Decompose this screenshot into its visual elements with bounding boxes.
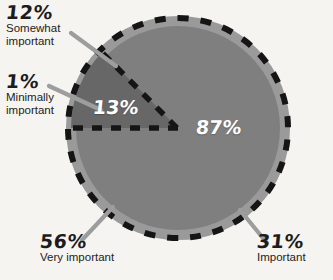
callout-important: 31% Important [257, 232, 306, 264]
callout-important-percent: 31% [256, 232, 307, 251]
callout-somewhat-percent: 12% [5, 3, 61, 22]
callout-somewhat-important: 12% Somewhat important [6, 3, 60, 48]
inner-label-13-percent: 13% [92, 98, 139, 117]
callout-somewhat-label-line2: important [6, 35, 60, 48]
callout-very-percent: 56% [39, 232, 115, 251]
callout-somewhat-label-line1: Somewhat [6, 22, 60, 35]
callout-important-label-line1: Important [257, 251, 306, 264]
callout-very-label-line1: Very important [40, 251, 114, 264]
pie-chart-figure: 13% 87% 12% Somewhat important 1% Minima… [0, 0, 333, 280]
callout-very-important: 56% Very important [40, 232, 114, 264]
callout-minimally-important: 1% Minimally important [6, 72, 54, 117]
callout-minimally-label-line1: Minimally [6, 91, 54, 104]
callout-minimally-percent: 1% [5, 72, 55, 91]
inner-label-87-percent: 87% [195, 118, 242, 137]
callout-minimally-label-line2: important [6, 104, 54, 117]
